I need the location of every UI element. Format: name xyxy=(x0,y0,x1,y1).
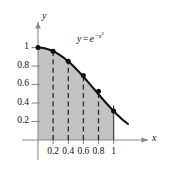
x-axis-name: x xyxy=(152,132,156,143)
curve-point-x0.6 xyxy=(81,73,86,78)
y-axis-name: y xyxy=(42,10,46,21)
equation-lhs: y xyxy=(77,33,82,44)
y-tick-label-0.2: 0.2 xyxy=(0,115,29,125)
curve-point-x0.2 xyxy=(51,49,56,54)
curve-point-x0 xyxy=(36,45,41,50)
equation-exponent-power: 2 xyxy=(101,31,104,36)
figure-container: y=e−x2 y x 1 0.8 0.6 0.4 0.2 0.2 0.4 0.6… xyxy=(0,0,175,170)
x-axis-arrowhead xyxy=(142,137,149,143)
y-tick-label-1: 1 xyxy=(0,41,29,51)
curve-point-x0.8 xyxy=(96,89,101,94)
y-axis-arrowhead xyxy=(35,22,41,29)
y-tick-label-0.8: 0.8 xyxy=(0,60,29,70)
shaded-area-under-curve xyxy=(38,48,114,140)
curve-point-x1 xyxy=(111,109,116,114)
equation-annotation: y=e−x2 xyxy=(77,31,104,44)
y-tick-label-0.6: 0.6 xyxy=(0,78,29,88)
curve-point-x0.4 xyxy=(66,59,71,64)
y-tick-label-0.4: 0.4 xyxy=(0,97,29,107)
x-tick-label-1: 1 xyxy=(100,146,128,156)
